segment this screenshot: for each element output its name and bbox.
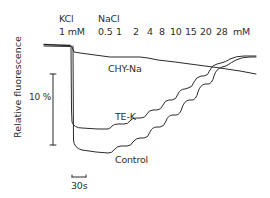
nacl-conc-1: 1 <box>116 27 122 37</box>
nacl-conc-5: 10 <box>170 27 182 37</box>
nacl-conc-4: 8 <box>159 27 165 37</box>
scale-label-y: 10 % <box>29 92 51 102</box>
y-axis-label: Relative fluorescence <box>12 36 23 138</box>
nacl-conc-7: 20 <box>200 27 212 37</box>
scale-bar-x <box>72 175 86 177</box>
curve-te-k <box>71 46 256 129</box>
nacl-unit: mM <box>233 27 250 37</box>
nacl-conc-8: 28 <box>216 27 228 37</box>
nacl-conc-2: 2 <box>133 27 139 37</box>
nacl-conc-6: 15 <box>185 27 197 37</box>
curve-control <box>73 46 256 153</box>
curve-label-te-k: TE-K <box>115 112 136 122</box>
nacl-label: NaCl <box>98 14 119 24</box>
kcl-concentration: 1 mM <box>59 27 85 37</box>
kcl-label: KCl <box>59 14 73 24</box>
scale-bar-y <box>50 74 56 145</box>
nacl-conc-0: 0.5 <box>98 27 113 37</box>
curve-label-chy-na: CHY-Na <box>108 64 142 74</box>
curve-label-control: Control <box>115 155 148 165</box>
scale-label-x: 30s <box>71 181 87 191</box>
nacl-conc-3: 4 <box>147 27 153 37</box>
fluorescence-figure: KCl 1 mM NaCl 0.5 1 2 4 8 10 15 20 28 mM… <box>0 0 270 198</box>
baseline-trace <box>44 45 70 46</box>
